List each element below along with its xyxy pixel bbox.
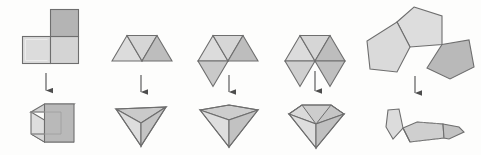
net1-square-top-right[interactable] xyxy=(51,10,79,37)
net1-square-bottom-right[interactable] xyxy=(51,37,79,64)
solid-cube-corner[interactable] xyxy=(31,104,74,142)
folding-nets-figure xyxy=(0,0,481,155)
figure-canvas xyxy=(0,0,481,155)
solid1-face-front[interactable] xyxy=(45,104,75,142)
net1-square-bottom-left[interactable] xyxy=(23,37,51,64)
